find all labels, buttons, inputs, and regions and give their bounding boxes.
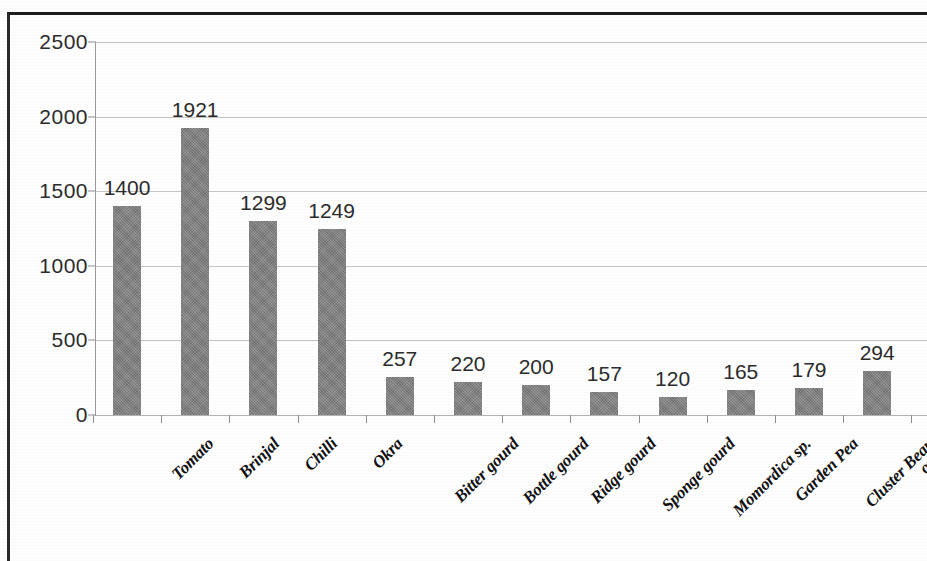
bar <box>181 128 209 415</box>
bar <box>113 206 141 415</box>
bar-value-label: 179 <box>774 358 844 382</box>
category-label: Chilli <box>301 434 342 475</box>
bar-value-label: 1921 <box>160 98 230 122</box>
y-axis-tick-label: 1500 <box>18 179 88 203</box>
x-axis-tick-mark <box>570 415 571 423</box>
bar <box>590 392 618 415</box>
category-label: Momordica sp. <box>729 434 815 520</box>
x-axis-tick-mark <box>707 415 708 423</box>
bar <box>522 385 550 415</box>
bar-value-label: 120 <box>638 367 708 391</box>
category-label: Tomato <box>168 434 218 484</box>
bar-value-label: 1299 <box>228 191 298 215</box>
gridline <box>95 42 927 43</box>
bar-value-label: 200 <box>501 355 571 379</box>
category-label: Brinjal <box>235 434 284 483</box>
y-axis-line <box>95 42 96 415</box>
x-axis-tick-mark <box>911 415 912 423</box>
category-label: Bitter gourd <box>450 434 523 507</box>
y-axis-tick-label: 1000 <box>18 254 88 278</box>
bar <box>249 221 277 415</box>
gridline <box>95 266 927 267</box>
gridline <box>95 340 927 341</box>
bar <box>659 397 687 415</box>
bar-value-label: 294 <box>842 341 912 365</box>
gridline <box>95 191 927 192</box>
bar-value-label: 157 <box>569 362 639 386</box>
y-axis-tick-label: 2500 <box>18 30 88 54</box>
x-axis-tick-mark <box>775 415 776 423</box>
gridline <box>95 415 927 416</box>
y-axis-tick-mark <box>88 265 96 266</box>
bar-value-label: 220 <box>433 352 503 376</box>
bar <box>863 371 891 415</box>
y-axis-tick-mark <box>88 340 96 341</box>
x-axis-tick-mark <box>93 415 94 423</box>
x-axis-tick-mark <box>298 415 299 423</box>
y-axis-tick-label: 500 <box>18 328 88 352</box>
bar-value-label: 1400 <box>92 176 162 200</box>
y-axis-tick-mark <box>88 42 96 43</box>
y-axis-tick-label: 0 <box>18 403 88 427</box>
category-label: Sponge gourd <box>658 434 740 516</box>
category-label: Okra <box>368 434 407 473</box>
bar <box>727 390 755 415</box>
bar-value-label: 1249 <box>297 199 367 223</box>
bar-chart: 05001000150020002500 1400192112991249257… <box>0 0 927 561</box>
bar <box>454 382 482 415</box>
x-axis-tick-mark <box>502 415 503 423</box>
category-label: Cluster Bean <box>861 434 927 512</box>
bar <box>795 388 823 415</box>
bar-value-label: 165 <box>706 360 776 384</box>
x-axis-tick-mark <box>639 415 640 423</box>
x-axis-tick-mark <box>366 415 367 423</box>
bar <box>318 229 346 415</box>
x-axis-tick-mark <box>161 415 162 423</box>
bar <box>386 377 414 415</box>
y-axis-tick-mark <box>88 116 96 117</box>
bar-value-label: 257 <box>365 347 435 371</box>
x-axis-tick-mark <box>229 415 230 423</box>
category-label: Ridge gourd <box>587 434 661 508</box>
x-axis-tick-mark <box>434 415 435 423</box>
x-axis-tick-mark <box>843 415 844 423</box>
category-label: Bottle gourd <box>519 434 593 508</box>
y-axis-tick-label: 2000 <box>18 105 88 129</box>
